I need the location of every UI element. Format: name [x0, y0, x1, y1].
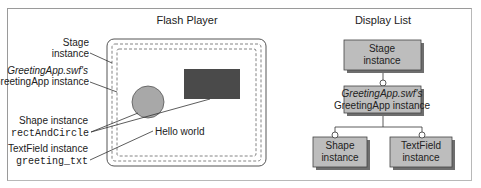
node-shape-line2: instance: [321, 152, 359, 163]
label-greeting-app-line1: GreetingApp.swf's: [7, 65, 88, 76]
hello-world-text: Hello world: [155, 126, 204, 137]
node-greeting-app: GreetingApp.swf's GreetingApp instance: [334, 86, 431, 116]
label-stage-line2: instance: [52, 48, 90, 59]
display-list-title: Display List: [355, 14, 411, 26]
node-greeting-app-line1: GreetingApp.swf's: [342, 88, 423, 99]
label-textfield-line1: TextField instance: [8, 143, 88, 154]
stage-outline: [107, 39, 266, 166]
node-stage-line2: instance: [363, 55, 401, 66]
node-textfield: TextField instance: [390, 137, 455, 170]
node-shape-line1: Shape: [326, 140, 355, 151]
flash-player-title: Flash Player: [156, 14, 217, 26]
node-textfield-line1: TextField: [401, 140, 441, 151]
node-textfield-line2: instance: [402, 152, 440, 163]
label-shape-line1: Shape instance: [19, 115, 88, 126]
connector-node-icon: [332, 132, 338, 138]
label-stage-line1: Stage: [63, 37, 90, 48]
node-shape: Shape instance: [313, 137, 370, 170]
label-textfield-line2: greeting_txt: [16, 156, 88, 167]
diagram-canvas: Flash Player Hello world Stage instance …: [0, 0, 481, 188]
label-shape-line2: rectAndCircle: [11, 128, 89, 139]
node-stage: Stage instance: [344, 40, 424, 73]
node-stage-line1: Stage: [369, 43, 396, 54]
connector-node-icon: [419, 132, 425, 138]
connector-node-icon: [380, 80, 386, 86]
node-greeting-app-line2: GreetingApp instance: [334, 100, 431, 111]
shape-rectangle: [184, 69, 240, 99]
label-greeting-app-line2: GreetingApp instance: [0, 76, 89, 87]
